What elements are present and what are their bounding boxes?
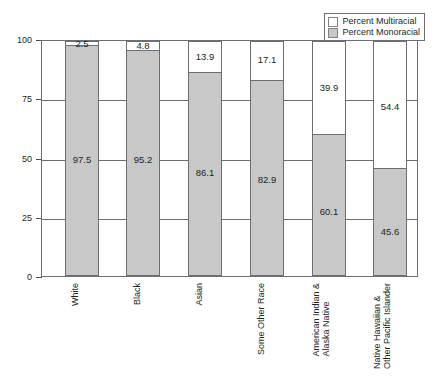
value-label-monoracial-white: 97.5 [56, 154, 108, 165]
legend-item-multiracial: Percent Multiracial [328, 16, 420, 27]
y-tick-label-25: 25 [2, 213, 32, 223]
x-axis-label-native-hawaiian-other-pacific-islander-line1: Native Hawaiian & [372, 296, 382, 370]
legend-item-monoracial: Percent Monoracial [328, 27, 420, 38]
value-label-multiracial-american-indian-alaska-native: 39.9 [303, 82, 355, 93]
x-axis-label-american-indian-alaska-native: American Indian & Alaska Native [311, 283, 331, 357]
legend-label-multiracial: Percent Multiracial [342, 17, 416, 26]
x-axis-label-some-other-race: Some Other Race [256, 283, 266, 355]
x-axis-label-american-indian-alaska-native-line1: American Indian & [311, 283, 321, 357]
y-tick-mark-0 [36, 277, 41, 278]
y-tick-label-0: 0 [2, 272, 32, 282]
bar-native-hawaiian-other-pacific-islander: 54.4 45.6 [373, 41, 407, 276]
legend-swatch-multiracial [328, 17, 338, 27]
value-label-monoracial-asian: 86.1 [179, 167, 231, 178]
x-axis-label-native-hawaiian-other-pacific-islander: Native Hawaiian & Other Pacific Islander [372, 283, 392, 369]
value-label-multiracial-black: 4.8 [117, 40, 169, 51]
bar-black: 4.8 95.2 [126, 41, 160, 276]
value-label-monoracial-black: 95.2 [117, 154, 169, 165]
x-axis-label-some-other-race-line1: Some Other Race [256, 283, 266, 355]
plot-area: 2.5 97.5 4.8 95.2 13.9 86.1 17.1 82.9 [41, 40, 418, 277]
bar-american-indian-alaska-native: 39.9 60.1 [312, 41, 346, 276]
value-label-multiracial-asian: 13.9 [179, 51, 231, 62]
x-axis-label-white-line1: White [70, 283, 80, 306]
value-label-monoracial-american-indian-alaska-native: 60.1 [303, 206, 355, 217]
y-tick-label-75: 75 [2, 94, 32, 104]
legend-swatch-monoracial [328, 28, 338, 38]
y-tick-label-50: 50 [2, 154, 32, 164]
x-axis-label-asian: Asian [194, 283, 204, 306]
x-axis-label-american-indian-alaska-native-line2: Alaska Native [321, 283, 331, 357]
chart-legend: Percent Multiracial Percent Monoracial [324, 13, 425, 41]
x-axis-label-black: Black [132, 283, 142, 305]
bar-asian: 13.9 86.1 [188, 41, 222, 276]
legend-label-monoracial: Percent Monoracial [342, 28, 420, 37]
bar-white: 2.5 97.5 [65, 41, 99, 276]
bar-some-other-race: 17.1 82.9 [250, 41, 284, 276]
segment-monoracial-native-hawaiian-other-pacific-islander [373, 168, 407, 276]
y-tick-label-100: 100 [2, 35, 32, 45]
x-axis-label-black-line1: Black [132, 283, 142, 305]
value-label-monoracial-native-hawaiian-other-pacific-islander: 45.6 [364, 226, 416, 237]
value-label-multiracial-native-hawaiian-other-pacific-islander: 54.4 [364, 101, 416, 112]
stacked-bar-chart: Percent Multiracial Percent Monoracial 0… [0, 0, 441, 378]
segment-monoracial-american-indian-alaska-native [312, 134, 346, 276]
x-axis-label-asian-line1: Asian [194, 283, 204, 306]
value-label-multiracial-some-other-race: 17.1 [241, 54, 293, 65]
value-label-multiracial-white: 2.5 [56, 38, 108, 49]
x-axis-label-white: White [70, 283, 80, 306]
x-axis-label-native-hawaiian-other-pacific-islander-line2: Other Pacific Islander [382, 283, 392, 369]
value-label-monoracial-some-other-race: 82.9 [241, 174, 293, 185]
